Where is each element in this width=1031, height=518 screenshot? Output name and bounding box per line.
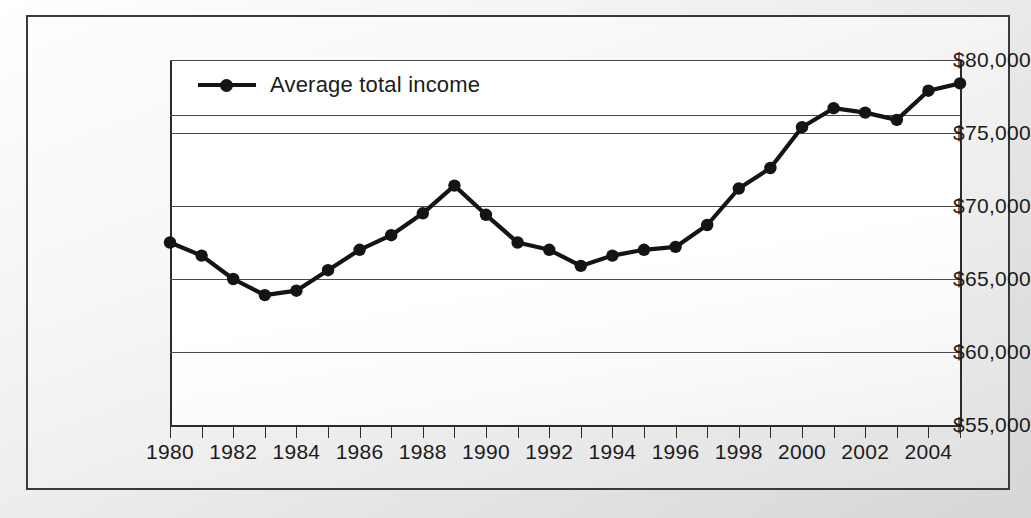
x-axis-tick-label: 2004: [904, 440, 952, 464]
x-axis-tick-label: 1984: [272, 440, 320, 464]
plot-right-border: [960, 60, 962, 427]
x-axis-tick-mark: [170, 427, 171, 438]
x-axis-tick-mark: [233, 427, 234, 438]
x-axis-tick-mark: [707, 427, 708, 438]
x-axis-tick-label: 1988: [399, 440, 447, 464]
x-axis-tick-label: 1996: [652, 440, 700, 464]
y-axis-tick-label: $60,000: [881, 340, 1031, 364]
x-axis-tick-label: 1980: [146, 440, 194, 464]
x-axis-tick-mark: [612, 427, 613, 438]
x-axis-line: [170, 425, 962, 427]
x-axis-tick-mark: [360, 427, 361, 438]
x-axis-tick-mark: [739, 427, 740, 438]
x-axis-tick-label: 1992: [525, 440, 573, 464]
x-axis-tick-mark: [423, 427, 424, 438]
y-axis-tick-label: $75,000: [881, 121, 1031, 145]
x-axis-tick-mark: [897, 427, 898, 438]
x-axis-tick-mark: [454, 427, 455, 438]
chart-legend: Average total income: [170, 60, 960, 116]
x-axis-tick-mark: [549, 427, 550, 438]
y-axis-tick-label: $55,000: [881, 413, 1031, 437]
x-axis-tick-mark: [296, 427, 297, 438]
x-axis-tick-mark: [644, 427, 645, 438]
x-axis-tick-label: 2000: [778, 440, 826, 464]
chart-figure: $80,000$75,000$70,000$65,000$60,000$55,0…: [0, 0, 1031, 518]
x-axis-tick-mark: [486, 427, 487, 438]
x-axis-tick-label: 1986: [336, 440, 384, 464]
x-axis-tick-label: 1990: [462, 440, 510, 464]
x-axis-tick-label: 1982: [209, 440, 257, 464]
legend-line-marker-icon: [198, 77, 256, 93]
y-axis-tick-label: $65,000: [881, 267, 1031, 291]
y-axis-tick-label: $70,000: [881, 194, 1031, 218]
gridline: [170, 352, 962, 353]
x-axis-tick-mark: [391, 427, 392, 438]
x-axis-tick-mark: [202, 427, 203, 438]
x-axis-tick-mark: [802, 427, 803, 438]
x-axis-tick-mark: [770, 427, 771, 438]
x-axis-tick-mark: [328, 427, 329, 438]
x-axis-tick-mark: [518, 427, 519, 438]
x-axis-tick-label: 2002: [841, 440, 889, 464]
x-axis-tick-mark: [865, 427, 866, 438]
x-axis-tick-mark: [834, 427, 835, 438]
x-axis-tick-mark: [581, 427, 582, 438]
x-axis-tick-mark: [928, 427, 929, 438]
x-axis-tick-mark: [960, 427, 961, 438]
x-axis-tick-mark: [676, 427, 677, 438]
x-axis-tick-mark: [265, 427, 266, 438]
gridline: [170, 279, 962, 280]
legend-entry-label: Average total income: [270, 72, 480, 98]
x-axis-tick-label: 1998: [715, 440, 763, 464]
gridline: [170, 206, 962, 207]
legend-entry: Average total income: [198, 72, 480, 98]
x-axis-tick-label: 1994: [588, 440, 636, 464]
gridline: [170, 133, 962, 134]
